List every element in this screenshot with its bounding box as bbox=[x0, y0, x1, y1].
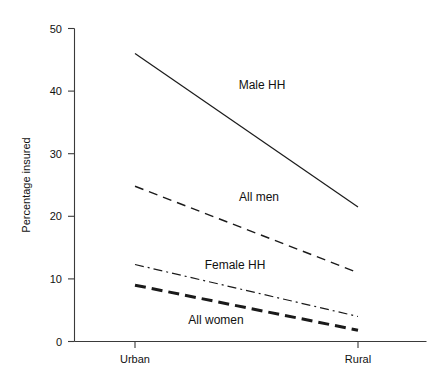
y-tick-label: 30 bbox=[50, 148, 62, 160]
chart-container: 01020304050 UrbanRural Percentage insure… bbox=[0, 0, 441, 380]
series-label-female-hh: Female HH bbox=[205, 258, 266, 272]
series-label-all-women: All women bbox=[188, 313, 243, 327]
y-tick-label: 20 bbox=[50, 210, 62, 222]
series-label-all-men: All men bbox=[239, 190, 279, 204]
y-tick-label: 0 bbox=[56, 336, 62, 348]
y-axis-title: Percentage insured bbox=[20, 137, 32, 232]
y-tick-label: 40 bbox=[50, 85, 62, 97]
line-chart: 01020304050 UrbanRural Percentage insure… bbox=[0, 0, 441, 380]
series-label-male-hh: Male HH bbox=[239, 78, 286, 92]
y-tick-label: 10 bbox=[50, 273, 62, 285]
x-tick-label: Urban bbox=[120, 353, 150, 365]
x-tick-label: Rural bbox=[345, 353, 371, 365]
y-tick-label: 50 bbox=[50, 23, 62, 35]
